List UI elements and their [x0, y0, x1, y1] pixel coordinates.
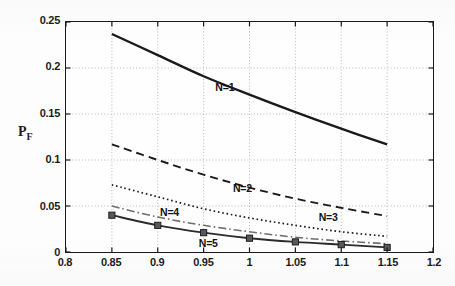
x-tick-label: 1.1	[322, 256, 362, 268]
plot-area	[65, 21, 434, 253]
x-tick-label: 0.85	[91, 256, 131, 268]
x-tick-label: 0.9	[137, 256, 177, 268]
x-tick-label: 0.8	[45, 256, 85, 268]
x-tick-label: 0.95	[183, 256, 223, 268]
y-tick-label: 0.15	[2, 107, 60, 119]
y-tick-label: 0.1	[2, 153, 60, 165]
annotation-n2: N=2	[233, 182, 252, 194]
annotation-n5: N=5	[199, 237, 218, 249]
x-tick-label: 1.15	[368, 256, 408, 268]
y-axis-label: PF	[18, 124, 33, 142]
y-tick-label: 0.05	[2, 200, 60, 212]
y-axis-label-base: P	[18, 124, 27, 139]
axis-ticks	[66, 22, 433, 252]
annotation-n4: N=4	[160, 206, 179, 218]
y-tick-label: 0.2	[2, 60, 60, 72]
y-tick-label: 0.25	[2, 14, 60, 26]
x-tick-label: 1.05	[276, 256, 316, 268]
y-axis-label-subscript: F	[27, 131, 33, 142]
x-tick-label: 1.2	[414, 256, 454, 268]
x-tick-label: 1	[230, 256, 270, 268]
annotation-n1: N=1	[215, 81, 234, 93]
annotation-n3: N=3	[319, 211, 338, 223]
figure-chart-pf-vs-l: PF 00.050.10.150.20.25 0.80.850.90.9511.…	[0, 0, 455, 286]
